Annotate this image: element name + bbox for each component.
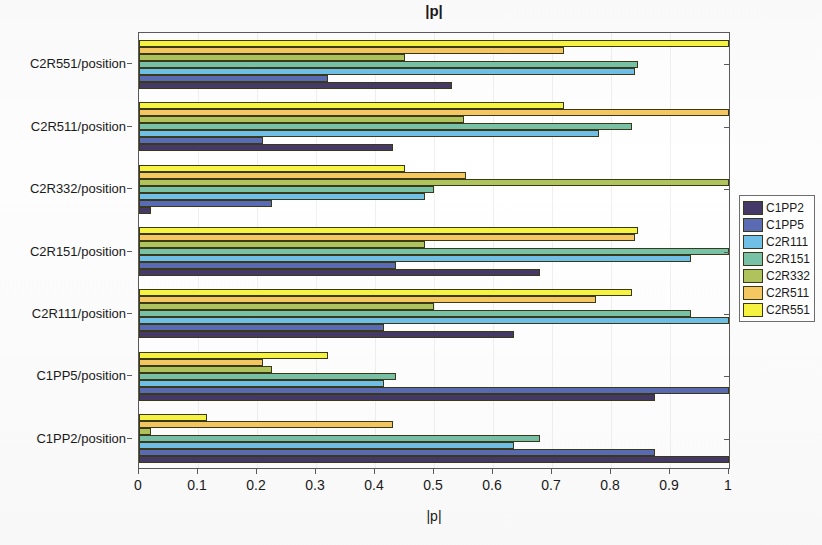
bar [139, 324, 384, 331]
x-tick-mark [315, 469, 316, 474]
bar-group [139, 227, 729, 276]
legend-swatch-icon [743, 235, 763, 249]
bar [139, 421, 393, 428]
chart-title: |p| [138, 2, 730, 19]
bar [139, 310, 691, 317]
y-tick-mark-right [724, 127, 729, 128]
bar [139, 241, 425, 248]
bar [139, 200, 272, 207]
bar [139, 442, 514, 449]
x-tick-mark [197, 469, 198, 474]
x-tick-mark [610, 469, 611, 474]
x-tick-label: 1 [724, 477, 732, 493]
y-tick-mark [127, 188, 132, 189]
legend-label: C2R551 [766, 303, 810, 317]
bar [139, 317, 729, 324]
bar [139, 380, 384, 387]
bar [139, 40, 729, 47]
bar-group [139, 165, 729, 214]
y-tick-label: C1PP5/position [36, 368, 126, 383]
bar-group [139, 352, 729, 401]
x-tick-mark [256, 469, 257, 474]
y-tick-mark-right [724, 439, 729, 440]
bar [139, 255, 691, 262]
bar [139, 68, 635, 75]
x-tick-label: 0 [134, 477, 142, 493]
legend-swatch-icon [743, 269, 763, 283]
x-tick-label: 0.3 [305, 477, 324, 493]
bar [139, 359, 263, 366]
legend-label: C2R151 [766, 252, 810, 266]
legend-item[interactable]: C2R332 [743, 267, 810, 284]
legend-swatch-icon [743, 303, 763, 317]
legend-swatch-icon [743, 218, 763, 232]
bar [139, 54, 405, 61]
bar [139, 248, 729, 255]
bar [139, 269, 540, 276]
legend-label: C2R511 [766, 286, 809, 300]
y-tick-mark-right [724, 189, 729, 190]
bar [139, 116, 464, 123]
bar [139, 435, 540, 442]
bar [139, 102, 564, 109]
bar [139, 414, 207, 421]
bar [139, 387, 729, 394]
x-tick-label: 0.1 [187, 477, 206, 493]
bar [139, 296, 596, 303]
bar-group [139, 40, 729, 89]
bar [139, 179, 729, 186]
bar [139, 428, 151, 435]
y-tick-mark-right [724, 376, 729, 377]
y-tick-label: C2R111/position [32, 305, 126, 320]
y-axis: C1PP2/positionC1PP5/positionC2R111/posit… [0, 32, 132, 469]
legend-item[interactable]: C1PP2 [743, 199, 810, 216]
x-tick-mark [669, 469, 670, 474]
bar [139, 262, 396, 269]
bar [139, 137, 263, 144]
x-tick-mark [728, 469, 729, 474]
legend-swatch-icon [743, 201, 763, 215]
legend-item[interactable]: C2R511 [743, 284, 810, 301]
x-tick-label: 0.5 [423, 477, 442, 493]
bar [139, 394, 655, 401]
bar [139, 123, 632, 130]
bar [139, 186, 434, 193]
y-tick-label: C2R511/position [31, 118, 126, 133]
legend-item[interactable]: C2R151 [743, 250, 810, 267]
bars-layer [139, 33, 729, 468]
x-tick-label: 0.9 [659, 477, 678, 493]
bar [139, 144, 393, 151]
bar [139, 165, 405, 172]
legend-item[interactable]: C1PP5 [743, 216, 810, 233]
x-tick-mark [551, 469, 552, 474]
figure-canvas: |p| C1PP2/positionC1PP5/positionC2R111/p… [0, 0, 822, 545]
bar [139, 449, 655, 456]
bar [139, 47, 564, 54]
y-tick-mark [127, 63, 132, 64]
bar [139, 456, 729, 463]
bar [139, 352, 328, 359]
bar [139, 109, 729, 116]
y-tick-label: C1PP2/position [36, 430, 126, 445]
y-tick-label: C2R151/position [30, 243, 126, 258]
x-axis-title: |p| [138, 508, 730, 524]
bar [139, 207, 151, 214]
bar [139, 234, 635, 241]
bar [139, 172, 466, 179]
bar [139, 193, 425, 200]
bar [139, 331, 514, 338]
legend-item[interactable]: C2R111 [743, 233, 810, 250]
bar [139, 373, 396, 380]
bar [139, 75, 328, 82]
bar [139, 130, 599, 137]
legend-item[interactable]: C2R551 [743, 301, 810, 318]
y-tick-mark [127, 313, 132, 314]
y-tick-mark [127, 126, 132, 127]
bar [139, 366, 272, 373]
legend-label: C2R111 [766, 235, 808, 249]
x-tick-label: 0.7 [541, 477, 560, 493]
x-tick-mark [138, 469, 139, 474]
bar [139, 303, 434, 310]
bar [139, 289, 632, 296]
y-tick-mark [127, 375, 132, 376]
